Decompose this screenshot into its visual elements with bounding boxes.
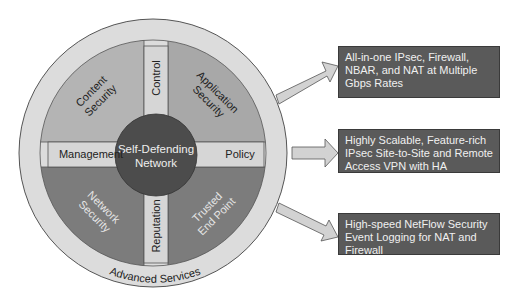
feature-text: Highly Scalable, Feature-rich IPsec Site…	[345, 134, 493, 172]
bar-label-policy: Policy	[225, 148, 255, 160]
bar-label-reputation: Reputation	[150, 199, 162, 252]
bar-label-management: Management	[59, 148, 123, 160]
center-label-line2: Network	[135, 157, 177, 169]
bar-label-control: Control	[150, 60, 162, 95]
feature-box-ipsec-firewall: All-in-one IPsec, Firewall, NBAR, and NA…	[338, 46, 500, 98]
arrow-to-feature-1	[276, 62, 338, 104]
center-label-line1: Self-Defending	[118, 143, 194, 155]
feature-text: High-speed NetFlow Security Event Loggin…	[345, 218, 487, 256]
feature-box-vpn: Highly Scalable, Feature-rich IPsec Site…	[338, 129, 500, 173]
arrow-to-feature-3	[276, 203, 338, 241]
center-circle	[115, 114, 197, 196]
feature-box-netflow: High-speed NetFlow Security Event Loggin…	[338, 213, 500, 255]
arrow-to-feature-2	[292, 139, 338, 167]
feature-text: All-in-one IPsec, Firewall, NBAR, and NA…	[345, 51, 477, 89]
